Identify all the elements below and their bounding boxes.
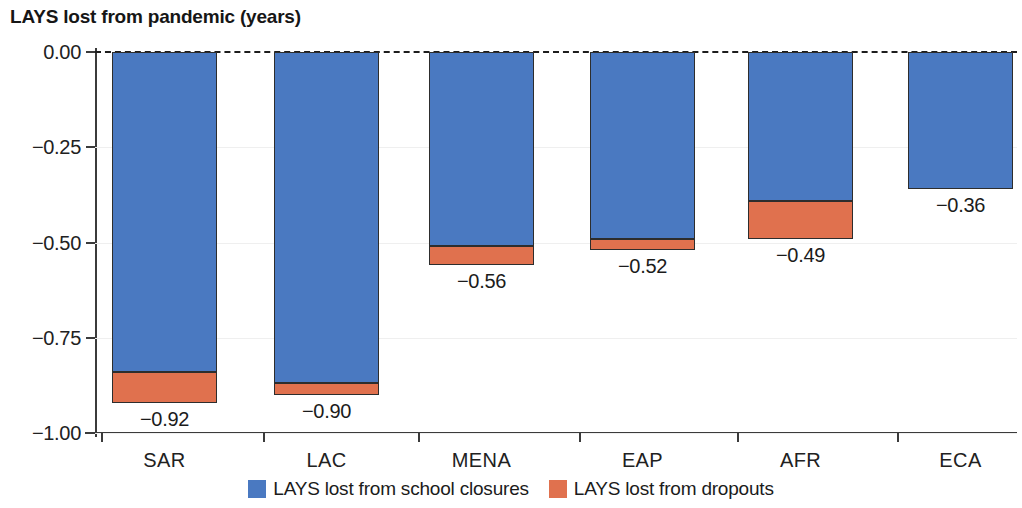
x-tick-mark [897,433,899,442]
legend-swatch-icon [248,480,266,498]
bar-segment-dropouts[interactable] [112,372,217,402]
bar-eca[interactable]: −0.36 [908,52,1013,433]
bar-afr[interactable]: −0.49 [748,52,853,433]
bar-eap[interactable]: −0.52 [590,52,695,433]
bar-sar[interactable]: −0.92 [112,52,217,433]
bar-segment-dropouts[interactable] [274,383,379,394]
y-gridline [95,243,1017,244]
legend-swatch-icon [549,480,567,498]
x-tick-mark [418,433,420,442]
legend-item[interactable]: LAYS lost from dropouts [549,478,774,500]
x-tick-label-eca: ECA [939,449,981,472]
bar-segment-closures[interactable] [112,52,217,372]
plot-area: 0.00−0.25−0.50−0.75−1.00 −0.92−0.90−0.56… [95,52,1017,433]
bar-value-label: −0.92 [140,408,189,431]
y-gridline [95,147,1017,148]
bar-value-label: −0.49 [776,244,825,267]
bar-segment-closures[interactable] [274,52,379,383]
y-tick-label: −0.75 [32,326,81,349]
y-tick-mark [86,337,95,339]
y-tick-mark [86,432,95,434]
chart-legend: LAYS lost from school closuresLAYS lost … [0,478,1022,500]
x-tick-mark [263,433,265,442]
y-tick-label: −0.50 [32,231,81,254]
x-tick-label-sar: SAR [143,449,185,472]
x-tick-mark [101,433,103,442]
bar-segment-dropouts[interactable] [590,239,695,250]
x-tick-label-lac: LAC [306,449,346,472]
bar-segment-closures[interactable] [429,52,534,246]
x-tick-label-afr: AFR [780,449,821,472]
x-tick-label-eap: EAP [622,449,663,472]
legend-label: LAYS lost from school closures [273,478,529,500]
y-tick-label: −0.25 [32,136,81,159]
y-tick-label: 0.00 [43,41,81,64]
chart-container: LAYS lost from pandemic (years) 0.00−0.2… [0,0,1022,508]
bar-segment-dropouts[interactable] [748,201,853,239]
x-tick-label-mena: MENA [452,449,511,472]
zero-reference-line [95,51,1017,53]
y-gridline [95,433,1017,434]
bar-value-label: −0.56 [457,270,506,293]
bar-lac[interactable]: −0.90 [274,52,379,433]
y-tick-mark [86,242,95,244]
x-tick-mark [579,433,581,442]
bar-value-label: −0.90 [302,400,351,423]
y-gridline [95,338,1017,339]
y-tick-label: −1.00 [32,422,81,445]
y-tick-mark [86,146,95,148]
bar-segment-dropouts[interactable] [429,246,534,265]
x-tick-mark [737,433,739,442]
chart-title: LAYS lost from pandemic (years) [10,6,301,28]
bar-mena[interactable]: −0.56 [429,52,534,433]
legend-label: LAYS lost from dropouts [574,478,774,500]
bar-segment-closures[interactable] [590,52,695,239]
bar-segment-closures[interactable] [908,52,1013,189]
y-tick-mark [86,51,95,53]
bar-value-label: −0.36 [936,194,985,217]
bar-value-label: −0.52 [618,255,667,278]
legend-item[interactable]: LAYS lost from school closures [248,478,529,500]
bar-segment-closures[interactable] [748,52,853,201]
